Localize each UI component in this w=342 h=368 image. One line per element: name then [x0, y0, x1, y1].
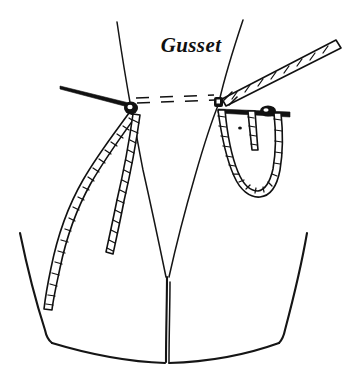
left-knot — [124, 102, 138, 115]
upper-right-cord-body — [222, 40, 341, 106]
gusset-leg-upper-left — [117, 22, 131, 108]
right-pin-head-highlight — [263, 108, 268, 112]
left-knot-highlight — [127, 105, 132, 109]
right-side-panel — [279, 233, 307, 343]
dashed-guide-lower — [137, 100, 215, 103]
upper-right-cord — [222, 40, 341, 106]
dashed-guide-line — [136, 95, 215, 103]
left-pin-shaft — [60, 86, 133, 108]
center-seam-right-branch — [169, 103, 219, 277]
left-pin — [60, 86, 133, 108]
gusset-label: Gusset — [143, 33, 239, 57]
right-inner-tail — [248, 111, 258, 150]
center-seam-lower-echo — [169, 282, 170, 362]
right-knot-highlight — [217, 100, 221, 104]
gusset-figure: Gusset — [0, 0, 342, 368]
dot-mark — [238, 127, 242, 130]
right-knot — [214, 97, 223, 107]
dashed-guide-upper — [136, 95, 214, 98]
center-seam-lower — [166, 277, 167, 362]
